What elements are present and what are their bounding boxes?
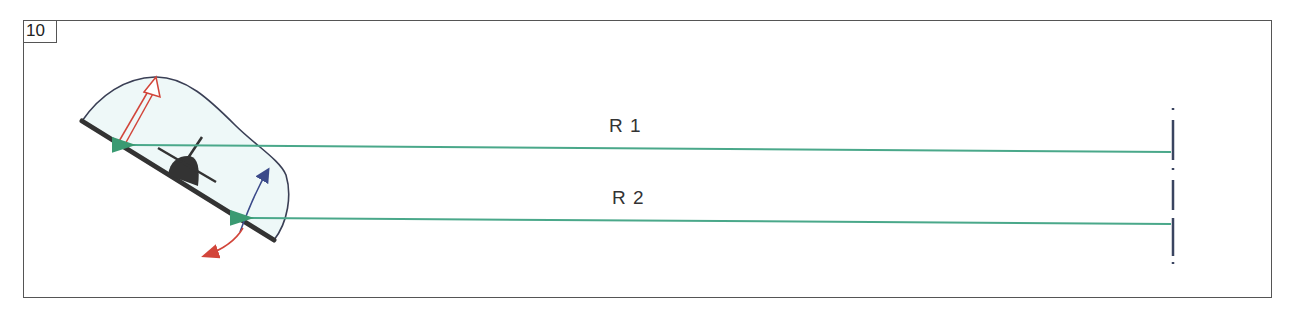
ray-r2-label: R 2 <box>612 187 645 209</box>
ray-r1-line <box>132 145 1171 152</box>
ray-r2-line <box>250 218 1171 224</box>
reflection-diagram <box>0 0 1291 316</box>
red-reflected-arrow-icon <box>204 228 243 256</box>
ray-r1-label: R 1 <box>609 115 642 137</box>
